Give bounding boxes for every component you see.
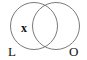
set-circle-o [33,3,80,50]
set-circle-l [11,3,58,50]
set-label-o: O [69,44,78,59]
mark-x: x [21,21,27,35]
venn-diagram: x L O [0,0,87,60]
set-label-l: L [8,44,16,59]
